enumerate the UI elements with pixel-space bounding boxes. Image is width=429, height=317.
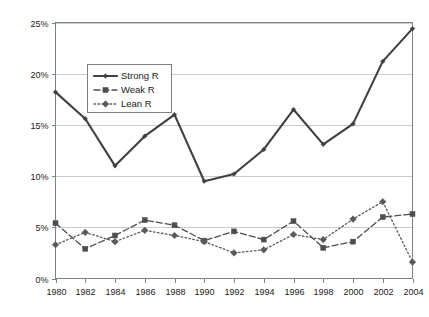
y-tick-label: 25% xyxy=(30,19,48,29)
y-tick-label: 5% xyxy=(35,223,48,233)
data-point-square-marker xyxy=(103,88,108,93)
y-tick-label: 0% xyxy=(35,275,48,285)
x-tick-label: 1994 xyxy=(254,287,274,297)
x-tick-label: 1980 xyxy=(46,287,66,297)
legend-item-label: Lean R xyxy=(121,98,152,109)
legend-item-label: Strong R xyxy=(121,70,159,81)
data-point-square-marker xyxy=(113,233,118,238)
data-point-square-marker xyxy=(172,223,177,228)
data-point-square-marker xyxy=(351,239,356,244)
data-point-square-marker xyxy=(410,211,415,216)
data-point-square-marker xyxy=(53,221,58,226)
x-tick-label: 2002 xyxy=(373,287,393,297)
y-tick-label: 20% xyxy=(30,70,48,80)
legend-item-label: Weak R xyxy=(121,84,155,95)
x-tick-label: 2000 xyxy=(343,287,363,297)
chart-legend: Strong RWeak RLean R xyxy=(88,65,172,113)
y-tick-label: 10% xyxy=(30,172,48,182)
x-tick-label: 1986 xyxy=(135,287,155,297)
x-tick-label: 1998 xyxy=(313,287,333,297)
data-point-square-marker xyxy=(142,218,147,223)
data-point-square-marker xyxy=(83,246,88,251)
x-tick-label: 1996 xyxy=(284,287,304,297)
data-point-square-marker xyxy=(321,245,326,250)
chart-background xyxy=(0,0,429,317)
x-tick-label: 1988 xyxy=(165,287,185,297)
data-point-square-marker xyxy=(261,237,266,242)
x-tick-label: 2004 xyxy=(403,287,423,297)
x-tick-label: 1984 xyxy=(105,287,125,297)
x-tick-label: 1982 xyxy=(75,287,95,297)
line-chart: 25%20%15%10%5%0% 19801982198419861988199… xyxy=(0,0,429,317)
data-point-square-marker xyxy=(380,215,385,220)
x-tick-label: 1992 xyxy=(224,287,244,297)
x-tick-label: 1990 xyxy=(194,287,214,297)
data-point-square-marker xyxy=(291,219,296,224)
chart-container: 25%20%15%10%5%0% 19801982198419861988199… xyxy=(0,0,429,317)
y-tick-label: 15% xyxy=(30,121,48,131)
data-point-square-marker xyxy=(232,229,237,234)
